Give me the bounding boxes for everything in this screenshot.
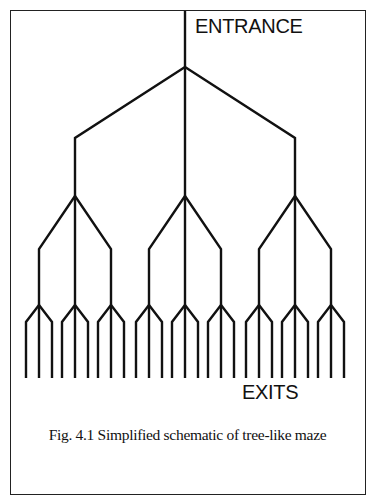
entrance-label: ENTRANCE (195, 15, 303, 38)
exit-path (98, 305, 111, 378)
exit-path (331, 305, 344, 378)
exit-path (208, 305, 221, 378)
figure-caption: Fig. 4.1 Simplified schematic of tree-li… (0, 426, 375, 444)
branch-level-2 (149, 196, 185, 305)
exit-path (26, 305, 39, 378)
exit-path (75, 305, 88, 378)
exit-path (149, 305, 162, 378)
exit-path (318, 305, 331, 378)
exit-path (39, 305, 52, 378)
maze-tree-diagram (0, 0, 375, 498)
branch-level-1 (75, 67, 185, 196)
exit-path (136, 305, 149, 378)
exits-label: EXITS (242, 381, 298, 404)
branch-level-2 (39, 196, 75, 305)
exit-path (185, 305, 198, 378)
exit-path (259, 305, 272, 378)
exit-path (221, 305, 234, 378)
exit-path (282, 305, 295, 378)
exit-path (295, 305, 308, 378)
exit-path (62, 305, 75, 378)
exit-path (172, 305, 185, 378)
exit-path (246, 305, 259, 378)
branch-level-1 (185, 67, 295, 196)
branch-level-2 (185, 196, 221, 305)
branch-level-2 (295, 196, 331, 305)
branch-level-2 (259, 196, 295, 305)
branch-level-2 (75, 196, 111, 305)
exit-path (111, 305, 124, 378)
